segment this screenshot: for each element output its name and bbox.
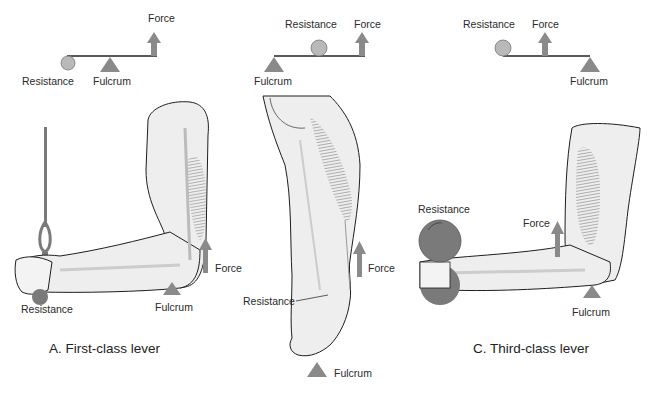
schematic-c-fulcrum-label: Fulcrum [570, 75, 608, 87]
fulcrum-triangle-icon [583, 285, 601, 298]
resistance-ball-icon [495, 40, 511, 56]
figure-b-resistance-label: Resistance [243, 295, 295, 307]
resistance-ball-icon [311, 40, 327, 56]
force-arrow-icon [355, 32, 369, 56]
force-arrow-icon [147, 32, 161, 56]
second-class-schematic [264, 32, 369, 72]
figure-a-resistance-label: Resistance [21, 303, 73, 315]
third-class-schematic [495, 32, 600, 72]
fulcrum-triangle-icon [580, 57, 600, 72]
schematic-b-fulcrum-label: Fulcrum [254, 75, 292, 87]
figure-b-force-label: Force [368, 262, 395, 274]
schematic-b-force-label: Force [354, 18, 381, 30]
schematic-a-force-label: Force [148, 12, 175, 24]
schematic-a-fulcrum-label: Fulcrum [93, 75, 131, 87]
force-arrow-icon [538, 32, 552, 56]
fulcrum-triangle-icon [307, 362, 327, 377]
figure-c-fulcrum-label: Fulcrum [572, 306, 610, 318]
schematic-c-force-label: Force [532, 18, 559, 30]
first-class-arm-illustration [15, 102, 212, 305]
caption-first-class: A. First-class lever [49, 341, 160, 356]
force-arrow-icon [353, 241, 366, 277]
schematic-a-resistance-label: Resistance [22, 75, 74, 87]
schematic-b-resistance-label: Resistance [285, 18, 337, 30]
figure-a-force-label: Force [215, 262, 242, 274]
resistance-ball-icon [61, 56, 75, 70]
lever-diagram [0, 0, 660, 394]
caption-third-class: C. Third-class lever [473, 341, 589, 356]
schematic-c-resistance-label: Resistance [463, 18, 515, 30]
figure-b-fulcrum-label: Fulcrum [334, 367, 372, 379]
fulcrum-triangle-icon [100, 57, 120, 72]
second-class-leg-illustration [263, 96, 366, 377]
fulcrum-triangle-icon [264, 57, 284, 72]
first-class-schematic [61, 32, 161, 72]
figure-c-force-label: Force [523, 217, 550, 229]
figure-c-resistance-label: Resistance [418, 203, 470, 215]
dumbbell-plate-front-icon [419, 220, 461, 262]
figure-a-fulcrum-label: Fulcrum [155, 301, 193, 313]
